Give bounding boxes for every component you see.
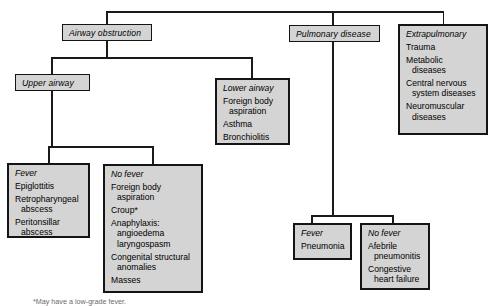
item-main: Foreign body <box>223 96 273 106</box>
item-cont: diseases <box>406 112 481 122</box>
item-cont: heart failure <box>368 274 423 284</box>
connector-pulmonary-down <box>332 42 334 216</box>
box-upper-airway-no-fever-header: No fever <box>111 169 196 180</box>
node-upper-airway-label: Upper airway <box>22 78 83 89</box>
box-extrapulmonary-header: Extrapulmonary <box>406 29 481 40</box>
item-main: Asthma <box>223 119 252 129</box>
list-item: Asthma <box>223 119 283 129</box>
node-airway-obstruction[interactable]: Airway obstruction <box>62 24 152 41</box>
item-main: Central nervous <box>406 78 467 88</box>
item-main: Epiglottitis <box>15 181 54 191</box>
list-item: Congenital structural anomalies <box>111 252 196 273</box>
item-cont: abscess <box>15 204 83 214</box>
list-item: Trauma <box>406 42 481 52</box>
item-cont: abscess <box>15 227 83 237</box>
item-cont: aspiration <box>223 106 283 116</box>
item-main: Metabolic <box>406 55 443 65</box>
connector-airway-obstruction-down <box>106 41 108 58</box>
item-cont: angioedema <box>111 228 196 238</box>
box-pulmonary-no-fever[interactable]: No fever Afebrile pneumonitis Congestive… <box>360 223 430 290</box>
item-cont2: laryngospasm <box>111 239 196 249</box>
list-item: Pneumonia <box>301 241 345 251</box>
flowchart-canvas: Airway obstruction Upper airway Lower ai… <box>0 0 495 306</box>
box-upper-airway-no-fever[interactable]: No fever Foreign body aspiration Croup* … <box>103 164 203 293</box>
item-main: Pneumonia <box>301 241 344 251</box>
list-item: Foreign body aspiration <box>223 96 283 117</box>
item-main: Croup* <box>111 205 138 215</box>
footnote-text: *May have a low-grade fever. <box>33 297 126 306</box>
connector-to-lower-airway <box>251 57 253 78</box>
box-upper-airway-fever[interactable]: Fever Epiglottitis Retropharyngeal absce… <box>7 163 90 238</box>
item-main: Foreign body <box>111 182 161 192</box>
list-item: Anaphylaxis: angioedema laryngospasm <box>111 218 196 249</box>
item-cont: diseases <box>406 65 481 75</box>
list-item: Croup* <box>111 205 196 215</box>
item-main: Congestive <box>368 264 411 274</box>
item-main: Bronchiolitis <box>223 132 269 142</box>
item-cont: aspiration <box>111 192 196 202</box>
box-pulmonary-fever-header: Fever <box>301 228 345 239</box>
node-upper-airway[interactable]: Upper airway <box>15 74 90 91</box>
connector-upper-airway-split <box>48 146 153 148</box>
item-cont: system diseases <box>406 88 481 98</box>
list-item: Neuromuscular diseases <box>406 101 481 122</box>
connector-airway-split <box>51 57 252 59</box>
connector-top-spine <box>106 11 444 13</box>
list-item: Masses <box>111 275 196 285</box>
item-main: Anaphylaxis: <box>111 218 160 228</box>
item-main: Retropharyngeal <box>15 194 79 204</box>
list-item: Peritonsillar abscess <box>15 217 83 238</box>
list-item: Metabolic diseases <box>406 55 481 76</box>
connector-to-extrapulmonary <box>443 11 445 25</box>
connector-pulmonary-split <box>311 215 393 217</box>
connector-to-pulm-no-fever <box>392 215 394 223</box>
connector-to-pulm-fever <box>311 215 313 223</box>
item-main: Congenital structural <box>111 252 190 262</box>
node-pulmonary-disease[interactable]: Pulmonary disease <box>289 25 380 42</box>
list-item: Afebrile pneumonitis <box>368 241 423 262</box>
item-cont: anomalies <box>111 262 196 272</box>
connector-to-upper-airway <box>51 57 53 74</box>
node-airway-obstruction-label: Airway obstruction <box>69 28 145 39</box>
connector-to-airway-obstruction <box>106 11 108 25</box>
box-lower-airway[interactable]: Lower airway Foreign body aspiration Ast… <box>215 78 290 145</box>
list-item: Bronchiolitis <box>223 132 283 142</box>
node-pulmonary-disease-label: Pulmonary disease <box>296 29 373 40</box>
connector-to-upper-no-fever <box>152 146 154 164</box>
connector-upper-airway-down <box>51 91 53 147</box>
connector-to-pulmonary-disease <box>332 11 334 26</box>
item-main: Peritonsillar <box>15 217 60 227</box>
list-item: Congestive heart failure <box>368 264 423 285</box>
list-item: Central nervous system diseases <box>406 78 481 99</box>
list-item: Foreign body aspiration <box>111 182 196 203</box>
box-pulmonary-no-fever-header: No fever <box>368 228 423 239</box>
item-main: Neuromuscular <box>406 101 464 111</box>
box-extrapulmonary[interactable]: Extrapulmonary Trauma Metabolic diseases… <box>398 24 488 135</box>
connector-to-upper-fever <box>48 146 50 163</box>
list-item: Retropharyngeal abscess <box>15 194 83 215</box>
box-pulmonary-fever[interactable]: Fever Pneumonia <box>293 223 352 260</box>
item-main: Afebrile <box>368 241 397 251</box>
box-lower-airway-header: Lower airway <box>223 83 283 94</box>
box-upper-airway-fever-header: Fever <box>15 168 83 179</box>
list-item: Epiglottitis <box>15 181 83 191</box>
item-cont: pneumonitis <box>368 251 423 261</box>
item-main: Trauma <box>406 42 435 52</box>
item-main: Masses <box>111 275 141 285</box>
